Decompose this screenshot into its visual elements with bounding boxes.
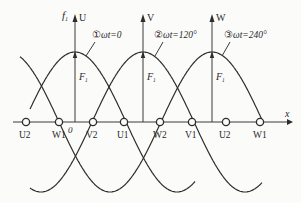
- phase-axis-u: U: [73, 12, 88, 122]
- phase-axis-w: W: [210, 12, 227, 122]
- peak-vector-label-2: F1: [146, 71, 156, 83]
- arrow-up-icon: [210, 14, 215, 22]
- arrow-up-icon: [141, 14, 146, 22]
- slot-circle: [22, 118, 29, 125]
- annotation-leader-1: [86, 42, 95, 56]
- diagram-canvas: x U V W f1 F1 F1 F1 ①ωt=0: [0, 0, 301, 203]
- phase-axis-v: V: [141, 12, 156, 122]
- annotation-2: ②ωt=120°: [154, 30, 197, 40]
- x-axis-label: x: [284, 108, 290, 119]
- slot-label: V1: [185, 130, 197, 140]
- phase-label-v: V: [147, 12, 155, 23]
- arrow-up-icon: [73, 14, 78, 22]
- origin-label: 0: [68, 125, 73, 135]
- slot-circle: [120, 118, 127, 125]
- slot-label: V2: [86, 130, 98, 140]
- slot-circle: [188, 118, 195, 125]
- phase-label-w: W: [216, 12, 226, 23]
- annotation-1: ①ωt=0: [92, 30, 122, 40]
- slot-circle: [156, 118, 163, 125]
- slot-circle: [55, 118, 62, 125]
- y-axis-label: f1: [62, 9, 68, 22]
- slot-label: U2: [219, 130, 231, 140]
- slot-label: W2: [153, 130, 167, 140]
- slot-label: U2: [19, 130, 31, 140]
- annotation-leader-3: [222, 42, 230, 56]
- peak-vector-label-1: F1: [78, 71, 88, 83]
- mmf-waveform-diagram: x U V W f1 F1 F1 F1 ①ωt=0: [0, 0, 301, 203]
- slot-circle: [222, 118, 229, 125]
- annotation-3: ③ωt=240°: [224, 30, 267, 40]
- phase-label-u: U: [79, 12, 87, 23]
- slot-label: W1: [253, 130, 267, 140]
- slot-label: W1: [52, 130, 66, 140]
- peak-vector-label-3: F1: [215, 71, 225, 83]
- slot-circle: [256, 118, 263, 125]
- annotation-leader-2: [155, 42, 163, 56]
- slot-label: U1: [117, 130, 129, 140]
- slot-circle: [89, 118, 96, 125]
